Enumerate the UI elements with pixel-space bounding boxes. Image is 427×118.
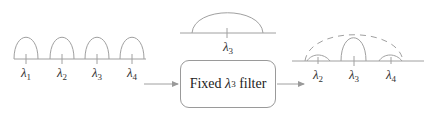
output-spectrum [292, 35, 424, 66]
output-label-4: λ4 [386, 68, 396, 84]
filter-response [180, 13, 276, 38]
input-spectrum [14, 37, 146, 64]
input-label-1: λ1 [21, 66, 31, 82]
filter-box-prefix: Fixed [190, 76, 225, 92]
filter-box-suffix: filter [236, 76, 267, 92]
input-label-3: λ3 [92, 66, 102, 82]
output-label-2: λ2 [313, 68, 323, 84]
input-label-4: λ4 [127, 66, 137, 82]
filter-response-label: λ3 [223, 40, 233, 56]
output-label-3: λ3 [349, 68, 359, 84]
input-label-2: λ2 [57, 66, 67, 82]
fixed-filter-box: Fixed λ3 filter [180, 60, 276, 108]
